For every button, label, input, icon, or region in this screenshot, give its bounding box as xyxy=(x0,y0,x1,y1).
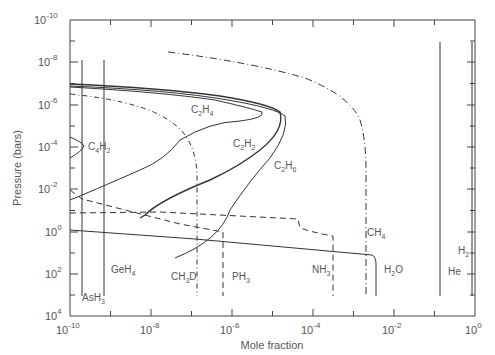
svg-text:10-4: 10-4 xyxy=(38,138,58,153)
label-ch4: CH4 xyxy=(367,227,385,240)
label-c2h4: C2H4 xyxy=(191,104,213,117)
svg-text:10-4: 10-4 xyxy=(301,321,321,336)
label-ash3: AsH3 xyxy=(82,292,105,305)
label-h2o: H2O xyxy=(384,264,403,277)
x-axis-title: Mole fraction xyxy=(241,339,304,351)
series-ph3 xyxy=(70,190,223,296)
label-he: He xyxy=(448,266,461,277)
label-nh3: NH3 xyxy=(312,264,330,277)
series-ch4 xyxy=(168,52,366,296)
svg-text:10-10: 10-10 xyxy=(34,11,58,26)
svg-text:10-6: 10-6 xyxy=(38,96,58,111)
y-tick-labels: 10-10 10-8 10-6 10-4 10-2 100 102 104 xyxy=(34,11,62,322)
label-c2h6: C2H6 xyxy=(274,160,296,173)
svg-text:10-2: 10-2 xyxy=(38,180,58,195)
svg-text:102: 102 xyxy=(45,265,62,280)
chart-svg: 10-10 10-8 10-6 10-4 10-2 100 102 104 10… xyxy=(0,0,495,355)
label-h2: H2 xyxy=(458,245,469,258)
y-axis-ticks xyxy=(70,41,475,295)
svg-text:10-6: 10-6 xyxy=(220,321,240,336)
svg-text:100: 100 xyxy=(465,321,482,336)
svg-text:10-2: 10-2 xyxy=(382,321,402,336)
x-tick-labels: 10-10 10-8 10-6 10-4 10-2 100 xyxy=(56,321,482,336)
label-geh4: GeH4 xyxy=(111,264,136,277)
y-axis-title: Pressure (bars) xyxy=(11,130,23,206)
curves xyxy=(70,42,472,296)
label-ch3d: CH3D xyxy=(171,271,197,284)
label-ph3: PH3 xyxy=(232,271,250,284)
svg-text:104: 104 xyxy=(45,307,62,322)
label-c4h2: C4H2 xyxy=(88,141,110,154)
svg-text:10-8: 10-8 xyxy=(140,321,160,336)
label-c2h2: C2H2 xyxy=(233,138,255,151)
svg-text:100: 100 xyxy=(45,223,62,238)
svg-text:10-8: 10-8 xyxy=(38,53,58,68)
svg-text:10-10: 10-10 xyxy=(56,321,80,336)
series-nh3 xyxy=(70,212,333,296)
series-ch3d xyxy=(70,94,197,296)
